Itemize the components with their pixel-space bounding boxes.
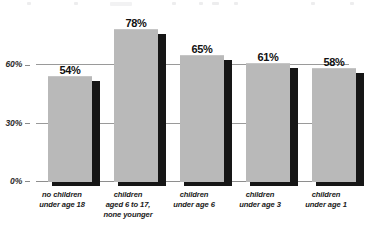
plot-area: 60% 30% 0% 54% 78% xyxy=(36,18,349,182)
y-axis-tick-30: 30% xyxy=(6,118,30,128)
bar-value-label: 58% xyxy=(323,56,344,68)
bar-value-label: 78% xyxy=(125,17,146,29)
bar-children-under-3: 61% xyxy=(246,64,290,183)
bar-no-children-under-18: 54% xyxy=(48,77,92,182)
bar-children-6-to-17: 78% xyxy=(114,30,158,182)
bar-value-label: 54% xyxy=(59,64,80,76)
bar-children-under-1: 58% xyxy=(312,69,356,182)
bar-value-label: 61% xyxy=(257,51,278,63)
y-axis-tick-0: 0% xyxy=(10,176,30,186)
y-axis-tick-60: 60% xyxy=(6,59,30,69)
x-axis-label-children-under-1: children under age 1 xyxy=(286,190,366,210)
bar-children-under-6: 65% xyxy=(180,56,224,182)
bar-value-label: 65% xyxy=(191,43,212,55)
